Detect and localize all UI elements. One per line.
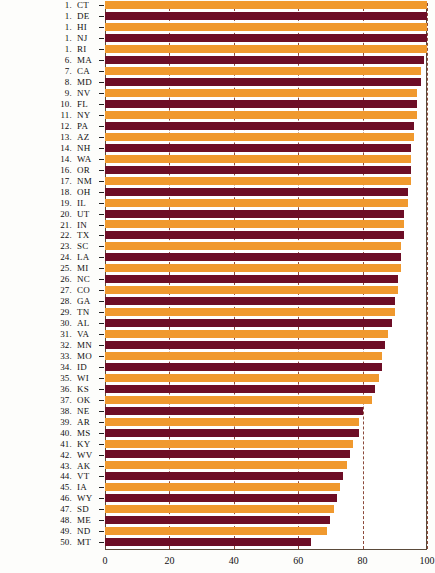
bar[interactable] bbox=[105, 122, 414, 130]
y-tick-mark bbox=[99, 60, 104, 61]
row-label: 13.AZ bbox=[0, 131, 101, 142]
bar[interactable] bbox=[105, 505, 334, 513]
bar-row: 16.OR bbox=[0, 164, 433, 175]
row-rank: 18. bbox=[50, 187, 72, 197]
bar[interactable] bbox=[105, 100, 417, 108]
bar[interactable] bbox=[105, 264, 401, 272]
row-state-abbr: NJ bbox=[77, 33, 101, 43]
row-rank: 31. bbox=[50, 329, 72, 339]
x-tick-label-60: 60 bbox=[293, 555, 303, 566]
bar[interactable] bbox=[105, 407, 363, 415]
row-state-abbr: NC bbox=[77, 274, 101, 284]
bar[interactable] bbox=[105, 210, 404, 218]
row-state-abbr: NM bbox=[77, 176, 101, 186]
bar[interactable] bbox=[105, 472, 343, 480]
bar[interactable] bbox=[105, 78, 421, 86]
bar[interactable] bbox=[105, 450, 350, 458]
bar[interactable] bbox=[105, 308, 395, 316]
bar-row: 1.DE bbox=[0, 11, 433, 22]
y-tick-mark bbox=[99, 137, 104, 138]
bar[interactable] bbox=[105, 56, 424, 64]
bar[interactable] bbox=[105, 494, 337, 502]
bar[interactable] bbox=[105, 220, 404, 228]
bar-row: 40.MS bbox=[0, 427, 433, 438]
bar[interactable] bbox=[105, 538, 311, 546]
bar[interactable] bbox=[105, 111, 417, 119]
bar[interactable] bbox=[105, 199, 408, 207]
bar[interactable] bbox=[105, 231, 404, 239]
row-rank: 24. bbox=[50, 252, 72, 262]
bar-row: 1.CT bbox=[0, 0, 433, 11]
row-rank: 44. bbox=[50, 471, 72, 481]
bar[interactable] bbox=[105, 144, 411, 152]
y-tick-mark bbox=[99, 192, 104, 193]
bar[interactable] bbox=[105, 67, 421, 75]
bar[interactable] bbox=[105, 177, 411, 185]
bar[interactable] bbox=[105, 363, 382, 371]
bar-row: 34.ID bbox=[0, 361, 433, 372]
bar[interactable] bbox=[105, 166, 411, 174]
bar[interactable] bbox=[105, 352, 382, 360]
y-tick-mark bbox=[99, 214, 104, 215]
row-state-abbr: ME bbox=[77, 515, 101, 525]
bar[interactable] bbox=[105, 242, 401, 250]
bar[interactable] bbox=[105, 527, 327, 535]
bar-row: 36.KS bbox=[0, 383, 433, 394]
y-tick-mark bbox=[99, 148, 104, 149]
bar[interactable] bbox=[105, 275, 398, 283]
row-label: 11.NY bbox=[0, 110, 101, 121]
bar[interactable] bbox=[105, 1, 427, 9]
bar[interactable] bbox=[105, 374, 379, 382]
bar[interactable] bbox=[105, 483, 340, 491]
y-tick-mark bbox=[99, 93, 104, 94]
bar-row: 26.NC bbox=[0, 274, 433, 285]
row-rank: 13. bbox=[50, 132, 72, 142]
bar-row: 10.FL bbox=[0, 99, 433, 110]
row-state-abbr: NY bbox=[77, 110, 101, 120]
row-state-abbr: CO bbox=[77, 285, 101, 295]
x-axis: 020406080100 bbox=[0, 552, 433, 573]
row-rank: 16. bbox=[50, 165, 72, 175]
bar[interactable] bbox=[105, 34, 427, 42]
bar[interactable] bbox=[105, 253, 401, 261]
bar-row: 32.MN bbox=[0, 340, 433, 351]
bar[interactable] bbox=[105, 341, 385, 349]
bar[interactable] bbox=[105, 461, 347, 469]
bar[interactable] bbox=[105, 330, 388, 338]
bar[interactable] bbox=[105, 440, 353, 448]
bar[interactable] bbox=[105, 429, 359, 437]
row-state-abbr: TN bbox=[77, 307, 101, 317]
bar[interactable] bbox=[105, 188, 408, 196]
y-tick-mark bbox=[99, 444, 104, 445]
bar[interactable] bbox=[105, 45, 427, 53]
row-state-abbr: GA bbox=[77, 296, 101, 306]
row-label: 27.CO bbox=[0, 285, 101, 296]
bar[interactable] bbox=[105, 516, 330, 524]
bar[interactable] bbox=[105, 23, 427, 31]
bar[interactable] bbox=[105, 12, 427, 20]
bar[interactable] bbox=[105, 319, 392, 327]
bar[interactable] bbox=[105, 155, 411, 163]
row-rank: 45. bbox=[50, 482, 72, 492]
y-tick-mark bbox=[99, 159, 104, 160]
row-label: 22.TX bbox=[0, 230, 101, 241]
bar[interactable] bbox=[105, 396, 372, 404]
bar[interactable] bbox=[105, 133, 414, 141]
bar[interactable] bbox=[105, 297, 395, 305]
row-state-abbr: NE bbox=[77, 406, 101, 416]
bar[interactable] bbox=[105, 286, 398, 294]
row-label: 30.AL bbox=[0, 318, 101, 329]
row-label: 41.KY bbox=[0, 438, 101, 449]
row-rank: 29. bbox=[50, 307, 72, 317]
row-state-abbr: WY bbox=[77, 493, 101, 503]
y-tick-mark bbox=[99, 5, 104, 6]
bar-row: 39.AR bbox=[0, 416, 433, 427]
row-state-abbr: MA bbox=[77, 55, 101, 65]
row-label: 7.CA bbox=[0, 66, 101, 77]
y-tick-mark bbox=[99, 268, 104, 269]
bar[interactable] bbox=[105, 418, 359, 426]
bar[interactable] bbox=[105, 89, 417, 97]
row-state-abbr: CA bbox=[77, 66, 101, 76]
bar[interactable] bbox=[105, 385, 375, 393]
